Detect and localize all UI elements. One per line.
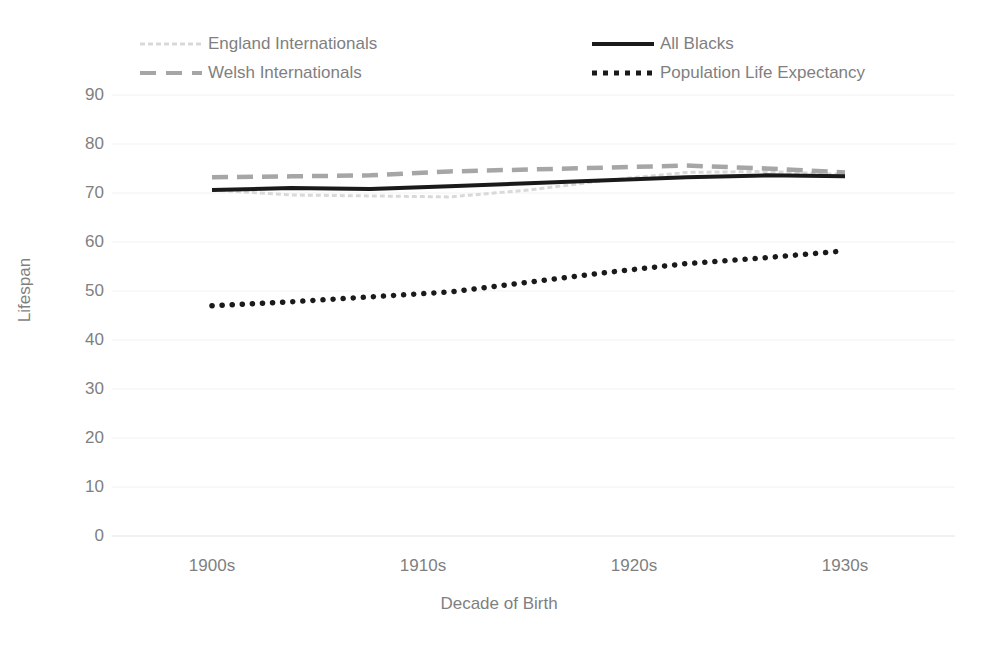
- plot-svg: [0, 0, 998, 651]
- series-line-all-blacks: [212, 175, 845, 190]
- lifespan-line-chart: England Internationals Welsh Internation…: [0, 0, 998, 651]
- plot-area: 9080706050403020100 1900s1910s1920s1930s…: [0, 0, 998, 651]
- x-tick-label: 1900s: [152, 556, 272, 576]
- y-axis-title: Lifespan: [15, 235, 35, 345]
- y-tick-label: 90: [58, 86, 104, 104]
- y-tick-label: 30: [58, 380, 104, 398]
- x-axis-title: Decade of Birth: [0, 594, 998, 614]
- x-tick-label: 1920s: [574, 556, 694, 576]
- x-tick-label: 1910s: [363, 556, 483, 576]
- y-tick-label: 0: [58, 527, 104, 545]
- gridlines: [112, 95, 955, 536]
- y-tick-label: 80: [58, 135, 104, 153]
- x-tick-label: 1930s: [785, 556, 905, 576]
- series-lines: [212, 166, 845, 306]
- y-tick-label: 10: [58, 478, 104, 496]
- y-tick-label: 50: [58, 282, 104, 300]
- series-line-population-life-expectancy: [212, 251, 845, 306]
- y-tick-label: 70: [58, 184, 104, 202]
- y-tick-label: 60: [58, 233, 104, 251]
- y-tick-label: 40: [58, 331, 104, 349]
- y-tick-label: 20: [58, 429, 104, 447]
